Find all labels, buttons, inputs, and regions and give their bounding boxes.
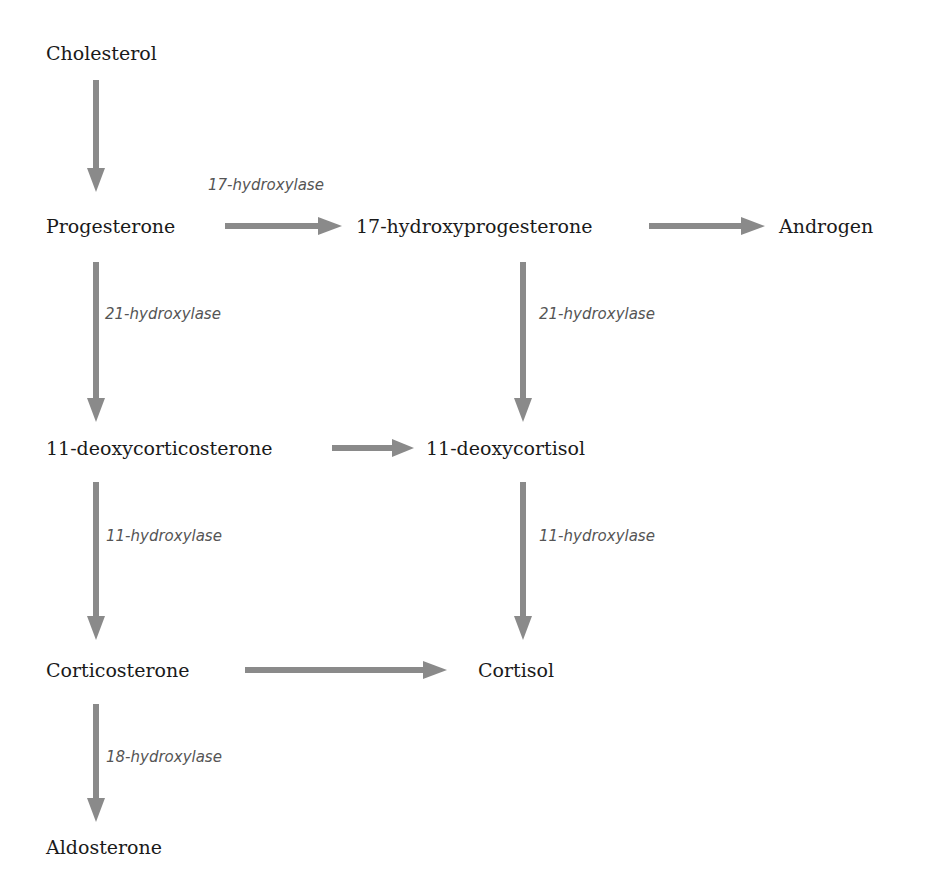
node-11-deoxycorticosterone: 11-deoxycorticosterone (46, 439, 272, 458)
enzyme-label-18-hydroxylase: 18-hydroxylase (106, 750, 222, 765)
node-17-hydroxyprogesterone: 17-hydroxyprogesterone (356, 217, 592, 236)
enzyme-label-11-hydroxylase-right: 11-hydroxylase (539, 529, 655, 544)
arrow-17ohp-to-androgen (649, 217, 765, 235)
enzyme-label-17-hydroxylase: 17-hydroxylase (208, 178, 324, 193)
enzyme-label-11-hydroxylase-left: 11-hydroxylase (106, 529, 222, 544)
node-cholesterol: Cholesterol (46, 44, 157, 63)
node-progesterone: Progesterone (46, 217, 175, 236)
arrow-doc-to-corticosterone (87, 482, 105, 640)
enzyme-label-21-hydroxylase-left: 21-hydroxylase (105, 307, 221, 322)
node-corticosterone: Corticosterone (46, 661, 189, 680)
arrow-cholesterol-to-progesterone (87, 80, 105, 192)
node-cortisol: Cortisol (478, 661, 554, 680)
arrow-17ohp-to-deoxycortisol (514, 262, 532, 422)
node-aldosterone: Aldosterone (46, 838, 162, 857)
arrow-progesterone-to-doc (87, 262, 105, 422)
arrow-corticosterone-to-aldosterone (87, 704, 105, 822)
arrow-doc-to-deoxycortisol (332, 439, 414, 457)
arrow-deoxycortisol-to-cortisol (514, 482, 532, 640)
arrow-corticosterone-to-cortisol (245, 661, 447, 679)
node-androgen: Androgen (779, 217, 873, 236)
arrow-progesterone-to-17ohp (225, 217, 342, 235)
enzyme-label-21-hydroxylase-right: 21-hydroxylase (539, 307, 655, 322)
node-11-deoxycortisol: 11-deoxycortisol (426, 439, 585, 458)
